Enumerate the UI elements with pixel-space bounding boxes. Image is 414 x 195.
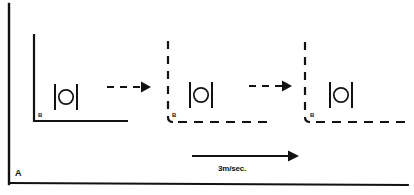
velocity-label: 3m/sec. [218, 165, 246, 173]
diagram-canvas [0, 0, 414, 195]
frame-1-solid [33, 34, 128, 122]
velocity-arrow [192, 151, 299, 162]
object-3-ball-between-bars [330, 82, 352, 108]
object-3-ball [334, 88, 348, 102]
motion-arrow-1-head [141, 82, 151, 93]
frame-3-dashed [305, 42, 410, 122]
physics-motion-diagram: B B B 3m/sec. A [0, 0, 414, 195]
object-1-ball-between-bars [55, 84, 77, 110]
frame-1-label-b: B [38, 112, 42, 118]
object-1-ball [59, 90, 73, 104]
velocity-arrow-head [288, 151, 299, 162]
object-2-ball [194, 88, 208, 102]
frame-3-label-b: B [310, 112, 314, 118]
motion-arrow-1 [107, 82, 151, 93]
object-2-ball-between-bars [190, 82, 212, 108]
frame-2-label-b: B [172, 112, 176, 118]
frame-2-dashed [168, 41, 272, 122]
motion-arrow-2 [249, 81, 292, 92]
motion-arrow-2-head [282, 81, 292, 92]
panel-label-a: A [15, 169, 22, 178]
panel-border-bottom [9, 183, 408, 185]
